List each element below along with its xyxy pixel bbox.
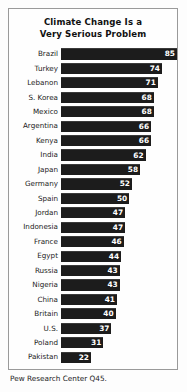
bar-track: 47	[61, 206, 177, 220]
bar-category-label: Mexico	[9, 108, 61, 116]
bar-track: 66	[61, 134, 177, 148]
bar: 71	[61, 77, 158, 88]
bar-track: 62	[61, 148, 177, 162]
bar-track: 74	[61, 61, 177, 75]
bar-category-label: Nigeria	[9, 281, 61, 289]
bar-value-label: 44	[109, 253, 121, 261]
bar-value-label: 68	[142, 94, 154, 102]
bar-category-label: Pakistan	[9, 353, 61, 361]
bar-row: China41	[9, 292, 177, 306]
chart-title: Climate Change Is a Very Serious Problem	[9, 9, 177, 40]
chart-title-line-2: Very Serious Problem	[15, 28, 171, 40]
bar-row: Nigeria43	[9, 278, 177, 292]
bar-row: France46	[9, 235, 177, 249]
bar-value-label: 71	[146, 79, 158, 87]
bar-row: Mexico68	[9, 105, 177, 119]
bar-row: Japan58	[9, 163, 177, 177]
bar-track: 66	[61, 119, 177, 133]
bar-row: Egypt44	[9, 249, 177, 263]
bar: 74	[61, 63, 162, 74]
bar-track: 58	[61, 163, 177, 177]
bar: 52	[61, 178, 132, 189]
bar-track: 52	[61, 177, 177, 191]
bar-category-label: France	[9, 238, 61, 246]
bar-row: Spain50	[9, 191, 177, 205]
bar-row: Indonesia47	[9, 220, 177, 234]
bar-category-label: Germany	[9, 180, 61, 188]
bar: 50	[61, 193, 129, 204]
bar-row: Russia43	[9, 264, 177, 278]
bar-category-label: Japan	[9, 166, 61, 174]
bar-track: 68	[61, 105, 177, 119]
bar-row: Germany52	[9, 177, 177, 191]
bar-category-label: Britain	[9, 310, 61, 318]
bar-category-label: Indonesia	[9, 223, 61, 231]
bar-category-label: Argentina	[9, 122, 61, 130]
bar-category-label: India	[9, 151, 61, 159]
bar-row: Jordan47	[9, 206, 177, 220]
bar-track: 22	[61, 350, 177, 364]
bar-row: India62	[9, 148, 177, 162]
bar-track: 44	[61, 249, 177, 263]
bar: 43	[61, 279, 120, 290]
bar-value-label: 47	[113, 209, 125, 217]
bar: 40	[61, 308, 116, 319]
bar: 62	[61, 149, 146, 160]
bar-category-label: Lebanon	[9, 79, 61, 87]
bar-value-label: 85	[165, 50, 177, 58]
bar: 58	[61, 164, 140, 175]
bar: 66	[61, 121, 151, 132]
bar: 68	[61, 106, 154, 117]
bar-row: Kenya66	[9, 134, 177, 148]
bar-row: U.S.37	[9, 321, 177, 335]
bar-value-label: 37	[99, 325, 111, 333]
bar-track: 68	[61, 90, 177, 104]
bar-track: 47	[61, 220, 177, 234]
bar-category-label: Russia	[9, 267, 61, 275]
bar-row: S. Korea68	[9, 90, 177, 104]
bar-value-label: 50	[117, 195, 129, 203]
bar-track: 43	[61, 264, 177, 278]
bar: 44	[61, 251, 121, 262]
chart-panel: Climate Change Is a Very Serious Problem…	[8, 8, 178, 370]
bar: 31	[61, 337, 103, 348]
bar-value-label: 43	[107, 267, 119, 275]
bar-value-label: 58	[128, 166, 140, 174]
chart-figure: Climate Change Is a Very Serious Problem…	[0, 0, 187, 392]
bar: 47	[61, 222, 125, 233]
bar-row: Britain40	[9, 307, 177, 321]
bar-value-label: 52	[120, 180, 132, 188]
bar-row: Lebanon71	[9, 76, 177, 90]
bar-value-label: 43	[107, 281, 119, 289]
bar: 68	[61, 92, 154, 103]
bar: 66	[61, 135, 151, 146]
bar-track: 41	[61, 292, 177, 306]
bar: 41	[61, 294, 117, 305]
bar-value-label: 22	[79, 354, 91, 362]
bar-category-label: Egypt	[9, 252, 61, 260]
bar-category-label: Poland	[9, 339, 61, 347]
bar-track: 71	[61, 76, 177, 90]
chart-title-line-1: Climate Change Is a	[15, 16, 171, 28]
bar-track: 37	[61, 321, 177, 335]
bar-value-label: 47	[113, 224, 125, 232]
bar-category-label: Brazil	[9, 50, 61, 58]
bar-category-label: Spain	[9, 195, 61, 203]
bar-category-label: China	[9, 296, 61, 304]
bar-category-label: Kenya	[9, 137, 61, 145]
bar-chart-plot: Brazil85Turkey74Lebanon71S. Korea68Mexic…	[9, 47, 177, 367]
bar-track: 46	[61, 235, 177, 249]
bar-track: 50	[61, 191, 177, 205]
bar-value-label: 66	[139, 137, 151, 145]
bar-row: Brazil85	[9, 47, 177, 61]
bar-category-label: U.S.	[9, 325, 61, 333]
bar-category-label: S. Korea	[9, 94, 61, 102]
bar-row: Argentina66	[9, 119, 177, 133]
bar-value-label: 66	[139, 123, 151, 131]
bar-track: 43	[61, 278, 177, 292]
bar-row: Pakistan22	[9, 350, 177, 364]
bar-value-label: 62	[133, 152, 145, 160]
bar-row: Turkey74	[9, 61, 177, 75]
bar-row: Poland31	[9, 336, 177, 350]
bar: 85	[61, 48, 177, 59]
